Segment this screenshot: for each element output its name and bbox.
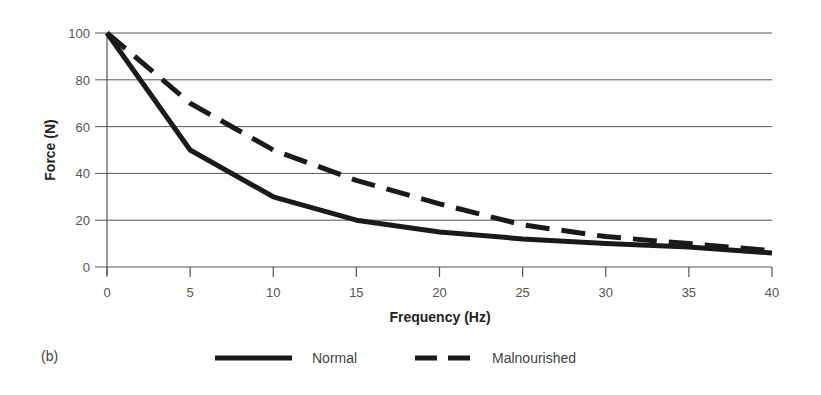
x-tick-label: 40 <box>765 285 779 300</box>
x-tick-label: 0 <box>103 285 110 300</box>
y-tick-label: 100 <box>68 26 90 41</box>
figure-label: (b) <box>41 348 58 364</box>
x-tick-label: 5 <box>187 285 194 300</box>
series-malnourished-line <box>107 33 772 251</box>
y-tick-label: 20 <box>76 213 90 228</box>
y-tick-label: 40 <box>76 166 90 181</box>
legend-normal-label: Normal <box>312 350 357 366</box>
y-axis-title: Force (N) <box>42 119 58 180</box>
y-tick-label: 0 <box>83 260 90 275</box>
legend-malnourished-label: Malnourished <box>492 350 576 366</box>
y-tick-label: 60 <box>76 120 90 135</box>
x-tick-label: 30 <box>599 285 613 300</box>
x-tick-label: 35 <box>682 285 696 300</box>
y-axis-ticks: 020406080100 <box>68 26 90 275</box>
x-tick-label: 15 <box>349 285 363 300</box>
legend: Normal Malnourished <box>215 350 576 366</box>
x-axis-title: Frequency (Hz) <box>389 309 490 325</box>
x-tick-label: 20 <box>432 285 446 300</box>
x-tick-label: 10 <box>266 285 280 300</box>
x-tick-label: 25 <box>515 285 529 300</box>
force-frequency-chart: 020406080100 0510152025303540 Force (N) … <box>0 0 821 395</box>
y-tick-label: 80 <box>76 73 90 88</box>
x-axis-ticks: 0510152025303540 <box>103 267 779 300</box>
